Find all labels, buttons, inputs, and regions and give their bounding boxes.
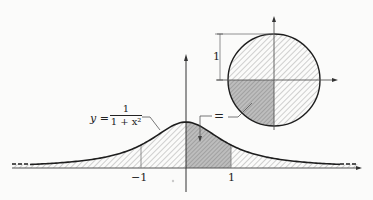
curve-label-fraction: 1 1 + x² [110, 104, 142, 127]
equals-label: = [214, 110, 224, 122]
area-under-curve [12, 122, 358, 168]
curve-label-leader [142, 117, 160, 130]
shaded-area-0-to-1 [186, 122, 231, 168]
diagram-canvas: y = 1 1 + x² −1 1 1 = [0, 0, 373, 200]
curve-label-lhs: y = [90, 113, 109, 124]
origin-mark [172, 180, 174, 182]
tick-label-pos-one: 1 [228, 172, 235, 183]
curve-label-numerator: 1 [110, 104, 142, 116]
y-axis-arrow-icon [184, 54, 188, 61]
radius-label: 1 [213, 51, 220, 62]
diagram-svg [0, 0, 373, 200]
curve-label-denominator: 1 + x² [110, 116, 142, 127]
circle-x-axis-arrow-icon [332, 78, 338, 82]
tick-label-neg-one: −1 [131, 172, 147, 183]
x-axis-arrow-icon [356, 166, 362, 170]
circle-y-axis-arrow-icon [272, 16, 276, 22]
